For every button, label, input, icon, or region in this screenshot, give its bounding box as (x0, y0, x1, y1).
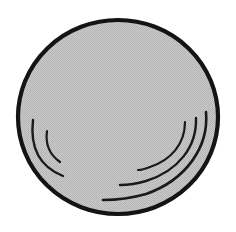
figure-container: Monochrome line drawing of a round shall… (0, 0, 236, 232)
circle-dish-illustration (0, 0, 236, 232)
